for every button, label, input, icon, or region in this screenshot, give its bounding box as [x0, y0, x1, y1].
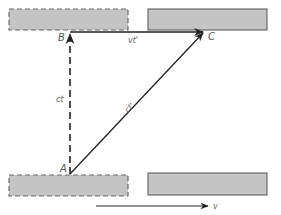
point-label-a: A: [59, 163, 67, 174]
edge-label-ct: ct: [56, 95, 64, 104]
top-left-mirror: [9, 9, 128, 30]
top-right-mirror: [148, 9, 267, 30]
edge-a-to-c: [70, 33, 203, 174]
edge-label-vt-prime: vt': [128, 36, 138, 45]
edge-label-ct-prime: ct': [123, 101, 136, 114]
velocity-label-v: v: [213, 202, 218, 211]
light-clock-diagram: B C A ct vt' ct' v: [0, 0, 281, 215]
bottom-right-mirror: [148, 173, 267, 195]
bottom-left-mirror: [9, 175, 128, 196]
point-label-c: C: [208, 31, 215, 42]
point-label-b: B: [58, 32, 65, 43]
